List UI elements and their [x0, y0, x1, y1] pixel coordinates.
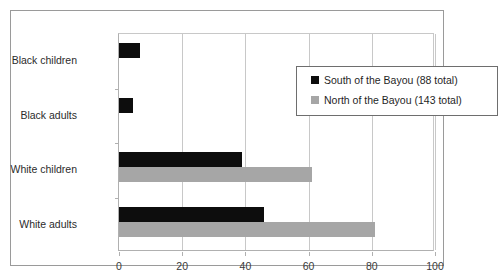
x-tick [309, 252, 310, 256]
x-tick [435, 252, 436, 256]
legend-label-south: South of the Bayou (88 total) [324, 75, 458, 86]
legend-swatch-north-icon [311, 96, 319, 104]
figure-border: 020406080100 Black childrenBlack adultsW… [10, 10, 444, 266]
bar-south [119, 207, 264, 222]
legend-item-north: North of the Bayou (143 total) [311, 95, 462, 106]
x-tick-label: 60 [303, 260, 315, 272]
x-tick-label: 20 [176, 260, 188, 272]
x-tick-label: 40 [240, 260, 252, 272]
plot-area: 020406080100 Black childrenBlack adultsW… [118, 33, 434, 251]
x-tick [245, 252, 246, 256]
y-tick [115, 89, 119, 90]
x-tick-label: 100 [426, 260, 444, 272]
bar-south [119, 98, 133, 113]
category-label: White adults [0, 219, 77, 230]
chart-legend: South of the Bayou (88 total) North of t… [296, 66, 498, 116]
legend-swatch-south-icon [311, 76, 319, 84]
bar-south [119, 152, 242, 167]
category-label: Black adults [0, 110, 77, 121]
x-tick [182, 252, 183, 256]
x-tick [372, 252, 373, 256]
bar-north [119, 167, 312, 182]
y-tick [115, 198, 119, 199]
category-label: Black children [0, 55, 77, 66]
legend-label-north: North of the Bayou (143 total) [324, 95, 462, 106]
x-tick-label: 0 [116, 260, 122, 272]
y-tick [115, 143, 119, 144]
bar-south [119, 43, 140, 58]
legend-item-south: South of the Bayou (88 total) [311, 75, 458, 86]
bar-north [119, 222, 375, 237]
x-tick [119, 252, 120, 256]
x-tick-label: 80 [366, 260, 378, 272]
category-label: White children [0, 164, 77, 175]
